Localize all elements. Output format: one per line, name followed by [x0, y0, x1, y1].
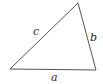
side-label-c: c: [33, 25, 39, 38]
triangle-diagram: a b c: [0, 0, 103, 84]
side-label-a: a: [51, 71, 58, 84]
side-label-b: b: [90, 31, 97, 44]
triangle: [10, 3, 96, 70]
